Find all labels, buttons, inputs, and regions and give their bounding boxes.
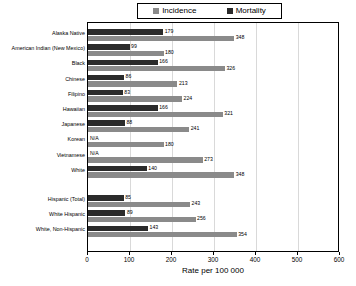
bar-row: White140348 bbox=[88, 165, 338, 180]
bar-rows: Alaska Native179348American Indian (New … bbox=[88, 23, 338, 251]
bar-mortality: 179 bbox=[88, 29, 163, 34]
bar-value-mortality: 83 bbox=[124, 89, 130, 95]
x-tick-label: 400 bbox=[250, 256, 261, 263]
bar-value-incidence: 273 bbox=[204, 156, 213, 162]
bar-value-mortality: 89 bbox=[127, 209, 133, 215]
bar-mortality: 89 bbox=[88, 210, 125, 215]
x-tick-label: 600 bbox=[334, 256, 345, 263]
bar-mortality: 140 bbox=[88, 166, 147, 171]
category-label: Vietnamese bbox=[57, 152, 85, 158]
legend-swatch-incidence bbox=[153, 8, 159, 14]
bar-row: White, Non-Hispanic143354 bbox=[88, 224, 338, 239]
bar-incidence: 354 bbox=[88, 232, 237, 237]
plot-area: Alaska Native179348American Indian (New … bbox=[87, 22, 339, 252]
bar-incidence: 256 bbox=[88, 217, 196, 222]
bar-incidence: 326 bbox=[88, 66, 225, 71]
bar-mortality: 86 bbox=[88, 75, 124, 80]
bar-mortality: 83 bbox=[88, 90, 123, 95]
legend-item-incidence: Incidence bbox=[153, 7, 196, 15]
bar-incidence: 321 bbox=[88, 112, 223, 117]
bar-incidence: 224 bbox=[88, 96, 182, 101]
bar-value-incidence: 213 bbox=[179, 80, 188, 86]
bar-value-mortality: 88 bbox=[126, 119, 132, 125]
bar-incidence: 273 bbox=[88, 157, 203, 162]
category-label: Korean bbox=[68, 136, 85, 142]
bar-value-incidence: 256 bbox=[197, 215, 206, 221]
category-label: Hispanic (Total) bbox=[48, 196, 85, 202]
bar-value-incidence: 348 bbox=[236, 171, 245, 177]
x-tick-label: 100 bbox=[124, 256, 135, 263]
bar-value-incidence: 354 bbox=[238, 231, 247, 237]
bar-value-mortality-na: N/A bbox=[90, 135, 99, 141]
bar-value-incidence: 241 bbox=[191, 125, 200, 131]
bar-incidence: 180 bbox=[88, 142, 164, 147]
bar-value-mortality: 99 bbox=[131, 43, 137, 49]
x-tick-100 bbox=[129, 252, 130, 255]
x-tick-label: 500 bbox=[292, 256, 303, 263]
bar-mortality: 99 bbox=[88, 44, 130, 49]
bar-value-incidence: 321 bbox=[224, 110, 233, 116]
x-tick-label: 200 bbox=[166, 256, 177, 263]
category-label: Chinese bbox=[65, 76, 85, 82]
legend-swatch-mortality bbox=[227, 8, 233, 14]
bar-value-incidence: 243 bbox=[192, 200, 201, 206]
legend-item-mortality: Mortality bbox=[227, 7, 266, 15]
bar-chart: Incidence Mortality Alaska Native179348A… bbox=[0, 0, 356, 286]
bar-value-mortality: 166 bbox=[159, 104, 168, 110]
bar-value-mortality: 85 bbox=[125, 194, 131, 200]
bar-row: American Indian (New Mexico)99180 bbox=[88, 43, 338, 58]
bar-mortality: 143 bbox=[88, 226, 148, 231]
x-axis-title: Rate per 100 000 bbox=[87, 266, 339, 275]
category-label: White, Non-Hispanic bbox=[36, 226, 85, 232]
bar-value-incidence: 326 bbox=[226, 65, 235, 71]
category-label: White bbox=[71, 167, 85, 173]
category-label: White Hispanic bbox=[49, 211, 85, 217]
x-tick-400 bbox=[255, 252, 256, 255]
bar-value-mortality: 179 bbox=[165, 28, 174, 34]
bar-value-incidence: 224 bbox=[184, 95, 193, 101]
bar-row: VietnameseN/A273 bbox=[88, 150, 338, 165]
x-tick-label: 300 bbox=[208, 256, 219, 263]
bar-incidence: 180 bbox=[88, 51, 164, 56]
bar-value-incidence: 348 bbox=[236, 34, 245, 40]
bar-mortality: 166 bbox=[88, 60, 158, 65]
bar-mortality: 166 bbox=[88, 105, 158, 110]
x-tick-label: 0 bbox=[85, 256, 89, 263]
bar-row: Alaska Native179348 bbox=[88, 28, 338, 43]
bar-row: Japanese88241 bbox=[88, 119, 338, 134]
legend-label-incidence: Incidence bbox=[162, 7, 196, 15]
category-label: Japanese bbox=[62, 121, 85, 127]
category-label: Filipino bbox=[68, 91, 85, 97]
bar-value-incidence: 180 bbox=[165, 49, 174, 55]
bar-incidence: 213 bbox=[88, 81, 177, 86]
bar-value-mortality-na: N/A bbox=[90, 150, 99, 156]
legend-label-mortality: Mortality bbox=[236, 7, 266, 15]
bar-row: White Hispanic89256 bbox=[88, 209, 338, 224]
category-label: Alaska Native bbox=[52, 30, 85, 36]
bar-row: KoreanN/A180 bbox=[88, 134, 338, 149]
bar-row: Chinese86213 bbox=[88, 74, 338, 89]
bar-incidence: 243 bbox=[88, 202, 190, 207]
bar-value-mortality: 86 bbox=[126, 73, 132, 79]
x-tick-300 bbox=[213, 252, 214, 255]
bar-mortality: 88 bbox=[88, 120, 125, 125]
bar-mortality: 85 bbox=[88, 195, 124, 200]
x-axis: Rate per 100 000 0100200300400500600 bbox=[87, 252, 339, 282]
bar-row: Hispanic (Total)85243 bbox=[88, 194, 338, 209]
bar-value-incidence: 180 bbox=[165, 141, 174, 147]
bar-value-mortality: 143 bbox=[150, 224, 159, 230]
bar-row: Hawaiian166321 bbox=[88, 104, 338, 119]
category-label: American Indian (New Mexico) bbox=[12, 45, 85, 51]
bar-row: Black166326 bbox=[88, 58, 338, 73]
x-tick-0 bbox=[87, 252, 88, 255]
bar-value-mortality: 140 bbox=[148, 165, 157, 171]
bar-incidence: 348 bbox=[88, 172, 234, 177]
bar-incidence: 241 bbox=[88, 127, 189, 132]
bar-value-mortality: 166 bbox=[159, 58, 168, 64]
x-tick-200 bbox=[171, 252, 172, 255]
category-label: Hawaiian bbox=[63, 106, 85, 112]
bar-incidence: 348 bbox=[88, 36, 234, 41]
bar-row: Filipino83224 bbox=[88, 89, 338, 104]
chart-legend: Incidence Mortality bbox=[137, 3, 282, 19]
x-tick-600 bbox=[339, 252, 340, 255]
